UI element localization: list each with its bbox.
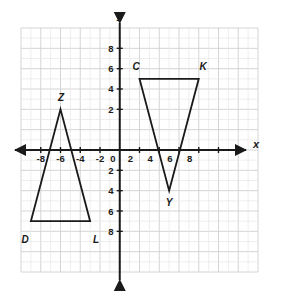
x-tick-pos6: 6 <box>167 153 172 164</box>
y-tick-pos2: 2 <box>108 104 113 115</box>
x-tick-neg2: -2 <box>96 153 104 164</box>
vertex-label-C: C <box>132 61 140 72</box>
x-tick-neg4: -4 <box>76 153 85 164</box>
y-tick-pos4: 4 <box>108 83 114 94</box>
y-tick-neg6: 6 <box>108 206 113 217</box>
x-tick-neg8: -8 <box>37 153 45 164</box>
vertex-label-Z: Z <box>57 92 65 103</box>
vertex-label-K: K <box>199 61 207 72</box>
coordinate-plane-figure: x y -8 -6 -4 -2 0 2 4 6 8 8 6 4 <box>0 0 282 291</box>
figure-background <box>0 0 282 291</box>
x-tick-pos8: 8 <box>187 153 192 164</box>
vertex-label-D: D <box>21 234 28 245</box>
x-tick-labels: -8 -6 -4 -2 0 2 4 6 8 <box>37 153 193 164</box>
y-tick-neg4: 4 <box>108 185 114 196</box>
vertex-label-L: L <box>93 234 99 245</box>
x-tick-neg6: -6 <box>56 153 64 164</box>
y-tick-pos8: 8 <box>108 43 113 54</box>
y-tick-neg8: 8 <box>108 226 113 237</box>
origin-label: 0 <box>110 153 115 164</box>
y-tick-pos6: 6 <box>108 63 113 74</box>
x-tick-pos2: 2 <box>128 153 133 164</box>
x-axis-label: x <box>252 138 260 150</box>
y-tick-neg2: 2 <box>108 165 113 176</box>
x-tick-pos4: 4 <box>148 153 154 164</box>
y-axis-label: y <box>116 9 124 21</box>
